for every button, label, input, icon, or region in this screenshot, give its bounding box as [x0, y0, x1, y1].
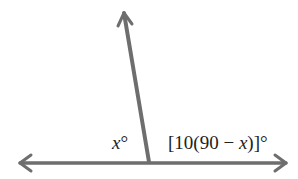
right-angle-suffix: )]°	[247, 132, 267, 153]
degree-symbol: °	[120, 132, 128, 153]
right-angle-prefix: [10(90 −	[168, 132, 239, 153]
right-angle-label: [10(90 − x)]°	[168, 133, 268, 152]
left-angle-label: x°	[112, 133, 128, 152]
